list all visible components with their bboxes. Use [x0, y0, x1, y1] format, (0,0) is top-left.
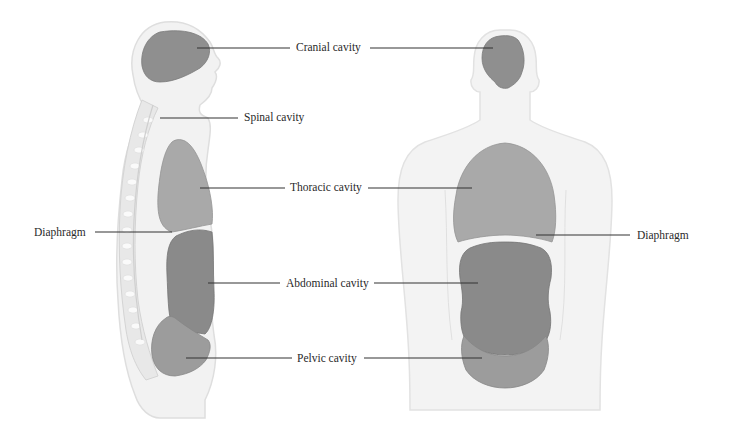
- label-spinal-cavity: Spinal cavity: [244, 110, 304, 124]
- anterior-body: [398, 30, 612, 410]
- anatomy-illustration: [0, 0, 731, 433]
- label-cranial-cavity: Cranial cavity: [296, 40, 361, 54]
- body-cavities-diagram: Cranial cavity Spinal cavity Thoracic ca…: [0, 0, 731, 433]
- label-pelvic-cavity: Pelvic cavity: [297, 351, 357, 365]
- label-diaphragm-right: Diaphragm: [637, 228, 689, 242]
- label-thoracic-cavity: Thoracic cavity: [290, 180, 362, 194]
- label-diaphragm-left: Diaphragm: [34, 225, 86, 239]
- label-abdominal-cavity: Abdominal cavity: [286, 276, 369, 290]
